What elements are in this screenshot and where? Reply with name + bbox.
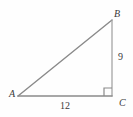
vertex-label-b: B	[114, 9, 120, 19]
hypotenuse-line-ab	[18, 20, 112, 96]
vertex-label-c: C	[119, 98, 126, 108]
geometry-figure: A B C 9 12	[0, 0, 133, 117]
side-length-label-ac: 12	[60, 101, 70, 111]
right-angle-marker-icon	[104, 88, 112, 96]
side-length-label-bc: 9	[118, 52, 123, 62]
vertex-label-a: A	[9, 89, 15, 99]
